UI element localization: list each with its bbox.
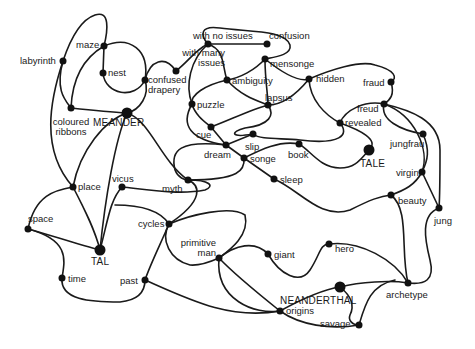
node-freud — [381, 101, 388, 108]
edge — [127, 80, 146, 113]
node-nest — [100, 70, 107, 77]
label-cycles: cycles — [138, 219, 164, 229]
label-with-no-issues: with no issues — [193, 31, 253, 41]
label-beauty: beauty — [398, 196, 427, 206]
node-hero — [326, 241, 333, 248]
label-tale: TALE — [360, 159, 385, 169]
node-myth — [185, 177, 192, 184]
edge — [391, 195, 408, 283]
edge — [309, 79, 340, 123]
label-space: space — [28, 214, 53, 224]
label-hidden: hidden — [316, 74, 345, 84]
label-confusion: confusion — [269, 31, 310, 41]
label-with-many-issues: with many issues — [155, 48, 225, 68]
label-songe: songe — [250, 154, 276, 164]
label-tal: TAL — [91, 257, 109, 267]
node-revealed — [337, 120, 344, 127]
label-fraud: fraud — [363, 78, 385, 88]
label-jung: jung — [434, 216, 452, 226]
edge — [60, 61, 71, 108]
node-tale — [364, 145, 375, 156]
node-dream — [223, 142, 230, 149]
node-origins — [277, 308, 284, 315]
edge-group — [28, 14, 440, 327]
node-labyrinth — [60, 58, 67, 65]
node-vicus — [119, 184, 126, 191]
node-coloured-ribbons — [68, 105, 75, 112]
label-origins: origins — [286, 306, 314, 316]
label-revealed: revealed — [345, 118, 381, 128]
node-mensonge — [262, 56, 269, 63]
label-sleep: sleep — [280, 175, 303, 185]
label-hero: hero — [335, 244, 354, 254]
edge — [219, 246, 268, 258]
node-jung — [436, 205, 443, 212]
label-giant: giant — [274, 250, 295, 260]
node-archetype — [405, 280, 412, 287]
edge — [253, 123, 344, 141]
edge — [188, 158, 244, 180]
label-dream: dream — [204, 150, 231, 160]
edge — [73, 187, 100, 250]
label-mensonge: mensonge — [270, 59, 314, 69]
label-ambiguity: ambiguity — [232, 76, 273, 86]
label-lapsus: lapsus — [265, 93, 292, 103]
node-neanderthal — [335, 282, 346, 293]
edge — [63, 14, 107, 61]
label-savage: savage — [320, 319, 351, 329]
label-puzzle: puzzle — [197, 100, 224, 110]
edge — [103, 46, 104, 73]
node-book — [296, 141, 303, 148]
label-myth: myth — [162, 184, 183, 194]
label-time: time — [68, 274, 86, 284]
edge — [71, 108, 127, 113]
label-virgin: virgin — [396, 168, 419, 178]
label-jungfrau: jungfrau — [390, 139, 424, 149]
edge — [340, 282, 408, 287]
edge — [145, 280, 280, 313]
node-beauty — [388, 192, 395, 199]
node-time — [59, 275, 66, 282]
node-savage — [356, 322, 363, 329]
label-labyrinth: labyrinth — [20, 56, 56, 66]
edge — [219, 258, 280, 311]
node-space — [25, 226, 32, 233]
label-confused-drapery: confused drapery — [148, 75, 187, 95]
label-place: place — [78, 182, 101, 192]
label-nest: nest — [108, 68, 126, 78]
node-slip — [250, 131, 257, 138]
node-cycles — [166, 221, 173, 228]
label-cue: cue — [196, 130, 211, 140]
node-fraud — [388, 79, 395, 86]
node-sleep — [271, 176, 278, 183]
node-past — [142, 277, 149, 284]
label-primitive-man: primitive man — [168, 238, 216, 258]
node-ambiguity — [224, 77, 231, 84]
label-coloured-ribbons: coloured ribbons — [46, 117, 96, 137]
label-archetype: archetype — [386, 290, 428, 300]
edge — [28, 229, 64, 278]
node-songe — [241, 155, 248, 162]
label-past: past — [120, 276, 138, 286]
node-puzzle — [189, 101, 196, 108]
edge — [359, 280, 395, 325]
label-meander: MEANDER — [93, 118, 144, 128]
label-slip: slip — [245, 142, 259, 152]
label-freud: freud — [357, 104, 379, 114]
node-giant — [265, 251, 272, 258]
node-tal — [95, 245, 106, 256]
node-hidden — [306, 76, 313, 83]
node-place — [70, 184, 77, 191]
label-vicus: vicus — [112, 174, 134, 184]
node-confusion — [264, 41, 271, 48]
node-maze — [101, 43, 108, 50]
node-virgin — [419, 169, 426, 176]
edge — [299, 144, 369, 168]
label-maze: maze — [76, 40, 99, 50]
node-jungfrau — [420, 131, 427, 138]
edge — [71, 46, 104, 108]
node-primitive-man — [216, 255, 223, 262]
edge — [383, 104, 423, 134]
label-book: book — [288, 150, 309, 160]
